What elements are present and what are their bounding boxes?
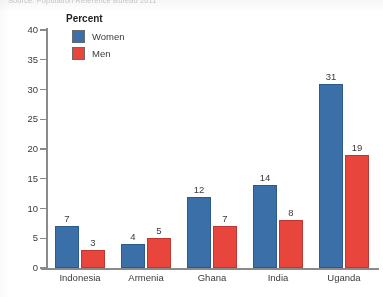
legend-label-women: Women	[92, 32, 125, 42]
bar-value-label: 8	[278, 208, 304, 218]
y-axis-tick	[40, 89, 47, 90]
plot-area: 73451271483119	[47, 30, 377, 268]
x-axis-line	[41, 268, 379, 270]
legend-swatch-men	[72, 47, 85, 60]
bar-value-label: 19	[344, 143, 370, 153]
legend-label-men: Men	[92, 49, 110, 59]
y-axis-tick	[40, 178, 47, 179]
y-axis-tick-label: 15	[8, 174, 38, 184]
grouped-bar-chart: Source: Population Reference Bureau 2011…	[0, 0, 383, 297]
y-axis-tick	[40, 238, 47, 239]
bar-women-ghana	[187, 197, 211, 268]
bar-value-label: 4	[120, 232, 146, 242]
legend-entries: WomenMen	[66, 28, 125, 62]
x-axis-category-label: Uganda	[299, 272, 383, 283]
bar-value-label: 14	[252, 173, 278, 183]
y-axis-tick-label-text: 40	[16, 25, 38, 35]
y-axis-tick-label: 35	[8, 55, 38, 65]
source-note: Source: Population Reference Bureau 2011	[8, 0, 258, 5]
bar-women-india	[253, 185, 277, 268]
y-axis-tick-label-text: 35	[16, 55, 38, 65]
y-axis-tick-label-text: 25	[16, 114, 38, 124]
chart-legend: Percent WomenMen	[66, 13, 125, 62]
legend-swatch-women	[72, 30, 85, 43]
bar-women-uganda	[319, 84, 343, 268]
y-axis-tick	[40, 148, 47, 149]
bar-women-armenia	[121, 244, 145, 268]
bar-value-label: 5	[146, 226, 172, 236]
y-axis-tick	[40, 119, 47, 120]
bar-value-label: 7	[54, 214, 80, 224]
y-axis-tick-label-text: 30	[16, 85, 38, 95]
y-axis-tick	[40, 208, 47, 209]
y-axis-tick-label-text: 5	[16, 233, 38, 243]
legend-entry-men: Men	[66, 45, 125, 62]
legend-title: Percent	[66, 13, 125, 25]
y-axis-tick-label: 20	[8, 144, 38, 154]
bar-women-indonesia	[55, 226, 79, 268]
bar-group: 45	[113, 30, 179, 268]
bar-group: 148	[245, 30, 311, 268]
bar-value-label: 12	[186, 185, 212, 195]
bar-value-label: 3	[80, 238, 106, 248]
y-axis-tick	[40, 267, 47, 268]
bar-group: 73	[47, 30, 113, 268]
bar-men-indonesia	[81, 250, 105, 268]
y-axis-tick-label: 25	[8, 114, 38, 124]
legend-entry-women: Women	[66, 28, 125, 45]
bar-value-label: 31	[318, 72, 344, 82]
y-axis-tick	[40, 59, 47, 60]
y-axis-tick-label-text: 10	[16, 204, 38, 214]
y-axis-tick-label-text: 20	[16, 144, 38, 154]
bar-group: 3119	[311, 30, 377, 268]
bar-group: 127	[179, 30, 245, 268]
bar-value-label: 7	[212, 214, 238, 224]
y-axis-tick-label: 40	[8, 25, 38, 35]
bar-men-ghana	[213, 226, 237, 268]
y-axis-tick-label: 5	[8, 233, 38, 243]
y-axis-tick-label: 30	[8, 85, 38, 95]
y-axis-tick-label: 10	[8, 204, 38, 214]
y-axis-tick-label-text: 15	[16, 174, 38, 184]
bar-men-uganda	[345, 155, 369, 268]
bar-men-armenia	[147, 238, 171, 268]
y-axis-tick-label: 0	[8, 263, 38, 273]
y-axis-tick	[40, 29, 47, 30]
bar-men-india	[279, 220, 303, 268]
